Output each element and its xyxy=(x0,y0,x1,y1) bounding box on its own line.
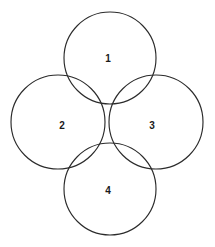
region-label-3: 3 xyxy=(149,120,155,131)
region-label-4: 4 xyxy=(105,185,111,196)
circle-left-2 xyxy=(11,75,105,169)
four-circle-venn-diagram: 1 2 3 4 xyxy=(0,0,215,247)
diagram-canvas: 1 2 3 4 xyxy=(0,0,215,247)
region-label-2: 2 xyxy=(59,120,65,131)
region-labels-group: 1 2 3 4 xyxy=(59,53,155,196)
circle-outlines-group xyxy=(11,12,203,235)
region-label-1: 1 xyxy=(105,53,111,64)
circle-right-3 xyxy=(109,75,203,169)
